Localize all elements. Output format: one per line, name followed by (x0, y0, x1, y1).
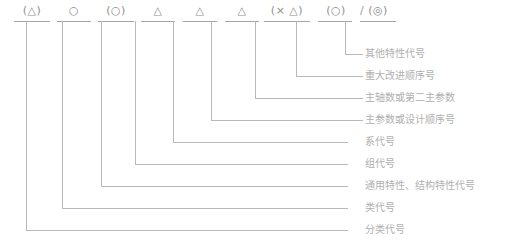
leader-horizontal-classification (26, 230, 348, 231)
label-classification: 分类代号 (365, 224, 405, 236)
symbol-glyph-series: △ (180, 4, 220, 18)
label-major-improvement: 重大改进顺序号 (365, 70, 435, 82)
label-general-structural: 通用特性、结构特性代号 (365, 180, 475, 192)
leader-horizontal-series (173, 142, 348, 143)
symbol-glyph-major-improvement: (○) (316, 4, 356, 18)
symbol-slot-4: △ (138, 4, 178, 18)
symbol-slot-3: (○) (96, 4, 136, 18)
symbol-slot-8: (○) (316, 4, 356, 18)
symbol-glyph-main-parameter: △ (222, 4, 262, 18)
symbol-underline-7 (264, 21, 310, 22)
symbol-underline-4 (141, 21, 175, 22)
symbol-glyph-classification: (△) (12, 4, 52, 18)
symbol-glyph-general-structural: (○) (96, 4, 136, 18)
symbol-glyph-other-characteristics: (◎) (358, 4, 398, 18)
leader-horizontal-major-improvement (296, 76, 363, 77)
label-series: 系代号 (365, 136, 395, 148)
leader-vertical-group (135, 21, 136, 164)
symbol-glyph-class: ○ (54, 4, 94, 18)
leader-horizontal-general-structural (101, 186, 348, 187)
symbol-slot-5: △ (180, 4, 220, 18)
leader-horizontal-group (135, 164, 348, 165)
leader-horizontal-spindle-count (255, 98, 363, 99)
symbol-underline-8 (318, 21, 352, 22)
machine-tool-model-designation-diagram: (△) ○ (○) △ △ △ (× △) (○) / (◎) (0, 0, 508, 245)
symbol-slot-10: (◎) (358, 4, 398, 18)
leader-horizontal-other-characteristics (345, 54, 363, 55)
symbol-underline-10 (360, 21, 396, 22)
symbol-underline-3 (98, 21, 134, 22)
leader-vertical-main-parameter (211, 21, 212, 120)
symbol-slot-2: ○ (54, 4, 94, 18)
leader-vertical-class (62, 21, 63, 208)
symbol-glyph-spindle-count: (× △) (262, 4, 312, 18)
label-group: 组代号 (365, 158, 395, 170)
label-main-parameter: 主参数或设计顺序号 (365, 114, 455, 126)
leader-horizontal-main-parameter (211, 120, 363, 121)
leader-vertical-major-improvement (296, 21, 297, 76)
symbol-slot-1: (△) (12, 4, 52, 18)
leader-horizontal-class (62, 208, 348, 209)
leader-vertical-series (173, 21, 174, 142)
symbol-underline-1 (14, 21, 50, 22)
label-other-characteristics: 其他特性代号 (365, 48, 425, 60)
symbol-glyph-group: △ (138, 4, 178, 18)
symbol-slot-6: △ (222, 4, 262, 18)
leader-vertical-general-structural (101, 21, 102, 186)
leader-vertical-spindle-count (255, 21, 256, 98)
label-spindle-count: 主轴数或第二主参数 (365, 92, 455, 104)
label-class: 类代号 (365, 202, 395, 214)
leader-vertical-other-characteristics (345, 21, 346, 54)
symbol-underline-6 (225, 21, 259, 22)
leader-vertical-classification (26, 21, 27, 230)
symbol-slot-7: (× △) (262, 4, 312, 18)
